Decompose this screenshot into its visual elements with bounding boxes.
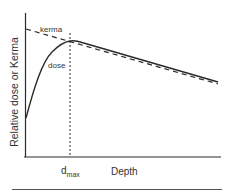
dmax-label: dmax: [61, 165, 80, 178]
kerma-label: kerma: [40, 25, 63, 34]
dose-label: dose: [48, 61, 66, 70]
y-axis-label: Relative dose or Kerma: [8, 37, 20, 147]
dose-curve: [26, 41, 218, 118]
kerma-curve: [26, 29, 218, 84]
x-axis-label: Depth: [111, 166, 138, 177]
depth-dose-diagram: kerma dose dmax Depth Relative dose or K…: [0, 0, 235, 194]
dmax-sub: max: [67, 171, 81, 178]
